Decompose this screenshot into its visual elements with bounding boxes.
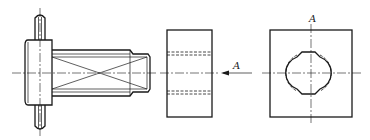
block-side-view (160, 30, 218, 117)
view-arrow-A: A (221, 60, 252, 76)
view-A: A (262, 13, 361, 124)
shaft-assembly (12, 8, 158, 136)
technical-drawing: A A (0, 0, 370, 140)
arrow-label: A (232, 60, 240, 71)
view-label: A (308, 13, 316, 24)
flange (25, 40, 52, 105)
